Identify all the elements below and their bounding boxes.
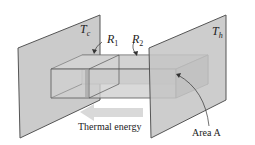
resistance-1-label: R1 [107, 32, 118, 48]
resistance-2-label: R2 [132, 32, 143, 48]
cold-temperature-label: Tc [80, 22, 90, 38]
thermal-energy-arrow [80, 104, 143, 121]
hot-temperature-label: Th [212, 24, 223, 40]
thermal-conduction-diagram: Tc Th R1 R2 Thermal energy Area A [0, 0, 255, 145]
area-label: Area A [192, 127, 221, 138]
thermal-energy-label: Thermal energy [78, 121, 141, 132]
